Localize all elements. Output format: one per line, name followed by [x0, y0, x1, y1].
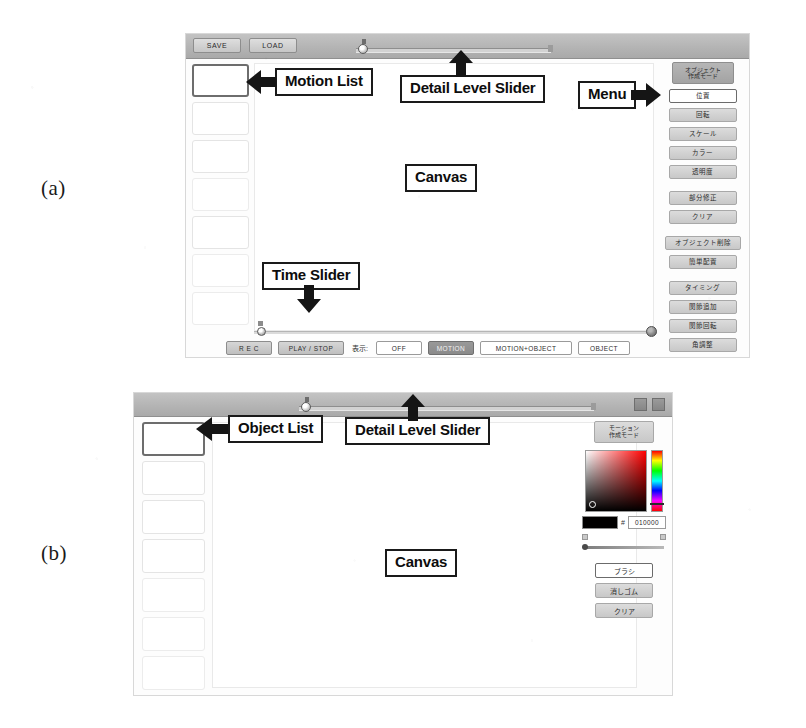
list-item[interactable] — [192, 140, 249, 173]
mode-label-line1: モーション — [609, 425, 639, 432]
annotation-menu: Menu — [578, 81, 636, 109]
display-mode-label: 表示: — [350, 343, 370, 353]
list-item[interactable] — [192, 292, 249, 325]
slider-track[interactable] — [299, 406, 594, 411]
time-slider[interactable] — [254, 326, 657, 338]
clear-button[interactable]: クリア — [595, 603, 653, 618]
object-creation-mode-badge[interactable]: オブジェクト 作成モード — [672, 62, 734, 84]
slider-thumb[interactable] — [301, 402, 311, 412]
current-color-swatch — [582, 516, 618, 529]
menu-item-clear[interactable]: クリア — [669, 210, 737, 224]
hex-prefix-label: # — [621, 519, 625, 526]
slider-thumb[interactable] — [358, 44, 368, 54]
annotation-arrow-up — [400, 394, 426, 421]
list-item[interactable] — [192, 102, 249, 135]
color-swatch-row: # 010000 — [582, 516, 666, 529]
color-picker-cursor — [589, 501, 596, 508]
mode-label-line2: 作成モード — [688, 73, 718, 79]
annotation-arrow-right — [631, 83, 661, 108]
display-toggle-motion[interactable]: MOTION — [428, 341, 474, 355]
annotation-motion-list: Motion List — [275, 68, 373, 96]
list-item[interactable] — [192, 216, 249, 249]
list-item[interactable] — [192, 178, 249, 211]
titlebar-button-1[interactable] — [634, 398, 647, 411]
slider-end-marker — [548, 45, 553, 52]
mode-label-line2: 作成モード — [609, 432, 639, 439]
annotation-arrow-down — [296, 285, 322, 313]
alpha-max-marker — [660, 534, 666, 540]
brush-tool-group: ブラシ 消しゴム クリア — [582, 563, 666, 623]
list-item[interactable] — [142, 656, 205, 690]
play-stop-button[interactable]: PLAY / STOP — [278, 341, 344, 355]
menu-item-simple-placement[interactable]: 簡単配置 — [669, 255, 737, 269]
annotation-arrow-left — [196, 416, 228, 442]
save-button[interactable]: SAVE — [193, 38, 241, 53]
menu-item-rotation[interactable]: 回転 — [669, 108, 737, 122]
list-item[interactable] — [192, 64, 249, 97]
list-item[interactable] — [142, 617, 205, 651]
menu-item-angle-adjust[interactable]: 角調整 — [669, 338, 737, 352]
slider-thumb[interactable] — [257, 327, 266, 336]
menu-divider — [660, 274, 745, 281]
slider-tick — [258, 321, 263, 326]
menu-item-delete-object[interactable]: オブジェクト削除 — [665, 236, 741, 250]
display-toggle-object[interactable]: OBJECT — [578, 341, 630, 355]
hue-slider[interactable] — [651, 450, 663, 512]
menu-item-partial-edit[interactable]: 部分修正 — [669, 191, 737, 205]
transport-bar: R E C PLAY / STOP 表示: OFF MOTION MOTION+… — [226, 340, 706, 356]
menu-item-position[interactable]: 位置 — [669, 89, 737, 103]
annotation-object-list: Object List — [228, 415, 323, 443]
annotation-canvas-a: Canvas — [405, 164, 477, 192]
menu-item-color[interactable]: カラー — [669, 146, 737, 160]
rec-button[interactable]: R E C — [226, 341, 272, 355]
alpha-slider-thumb[interactable] — [582, 544, 588, 550]
annotation-arrow-up — [448, 50, 474, 77]
annotation-detail-level-slider-b: Detail Level Slider — [345, 417, 490, 445]
menu-divider — [660, 184, 745, 191]
titlebar-button-2[interactable] — [652, 398, 665, 411]
annotation-detail-level-slider-a: Detail Level Slider — [400, 75, 545, 103]
load-button[interactable]: LOAD — [249, 38, 297, 53]
menu-item-rotate-joint[interactable]: 関節回転 — [669, 319, 737, 333]
annotation-canvas-b: Canvas — [385, 549, 457, 577]
hue-slider-cursor — [650, 503, 664, 505]
slider-end-thumb[interactable] — [646, 326, 657, 337]
hex-color-input[interactable]: 010000 — [628, 516, 666, 529]
menu-item-timing[interactable]: タイミング — [669, 281, 737, 295]
tool-panel-b: モーション 作成モード # 010000 — [580, 421, 668, 623]
saturation-value-field[interactable] — [585, 450, 647, 512]
annotation-arrow-left — [246, 69, 276, 95]
brush-button[interactable]: ブラシ — [595, 563, 653, 578]
color-picker[interactable]: # 010000 — [582, 450, 666, 543]
motion-list[interactable] — [192, 64, 249, 330]
object-list[interactable] — [142, 422, 205, 695]
list-item[interactable] — [192, 254, 249, 287]
list-item[interactable] — [142, 500, 205, 534]
display-toggle-motion-object[interactable]: MOTION+OBJECT — [480, 341, 572, 355]
slider-end-marker — [591, 403, 596, 410]
list-item[interactable] — [142, 461, 205, 495]
figure-marker-a: (a) — [41, 176, 66, 201]
list-item[interactable] — [142, 539, 205, 573]
alpha-slider-track[interactable] — [584, 546, 664, 549]
display-toggle-off[interactable]: OFF — [376, 341, 422, 355]
motion-creation-mode-badge[interactable]: モーション 作成モード — [594, 421, 654, 443]
eraser-button[interactable]: 消しゴム — [595, 583, 653, 598]
slider-track[interactable] — [254, 331, 657, 334]
menu-divider — [660, 229, 745, 236]
figure-marker-b: (b) — [41, 541, 67, 566]
alpha-slider-row[interactable] — [582, 534, 666, 543]
detail-level-slider-b[interactable] — [299, 402, 594, 413]
list-item[interactable] — [142, 578, 205, 612]
menu-panel: オブジェクト 作成モード 位置 回転 スケール カラー 透明度 部分修正 クリア… — [660, 62, 745, 357]
menu-item-scale[interactable]: スケール — [669, 127, 737, 141]
menu-item-add-joint[interactable]: 関節追加 — [669, 300, 737, 314]
menu-item-opacity[interactable]: 透明度 — [669, 165, 737, 179]
alpha-min-marker — [582, 534, 588, 540]
